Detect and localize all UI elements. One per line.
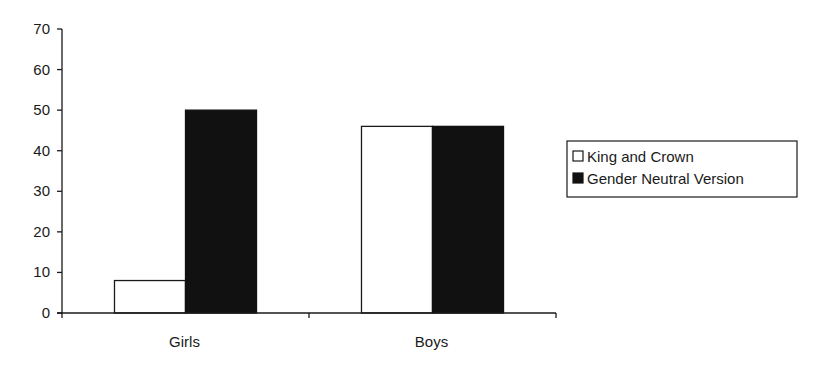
bar-chart: 010203040506070 GirlsBoys King and Crown… [0,0,816,368]
y-tick-label: 0 [42,304,50,321]
legend-label-king-and-crown: King and Crown [587,148,694,165]
bar-girls-gender-neutral-version [186,110,257,313]
y-tick-label: 60 [33,61,50,78]
y-tick-label: 70 [33,20,50,37]
bar-boys-king-and-crown [361,126,432,313]
y-tick-label: 10 [33,263,50,280]
y-tick-label: 20 [33,223,50,240]
legend: King and CrownGender Neutral Version [567,141,797,197]
y-tick-label: 40 [33,142,50,159]
y-tick-label: 30 [33,182,50,199]
legend-swatch-king-and-crown [573,151,583,161]
x-category-label-girls: Girls [169,333,200,350]
bars-group [114,110,503,313]
bar-girls-king-and-crown [114,281,185,313]
y-tick-label: 50 [33,101,50,118]
x-ticks-group: GirlsBoys [62,313,556,350]
bar-boys-gender-neutral-version [433,126,504,313]
y-ticks-group: 010203040506070 [33,20,62,321]
legend-label-gender-neutral-version: Gender Neutral Version [587,170,744,187]
legend-swatch-gender-neutral-version [573,173,583,183]
x-category-label-boys: Boys [415,333,448,350]
